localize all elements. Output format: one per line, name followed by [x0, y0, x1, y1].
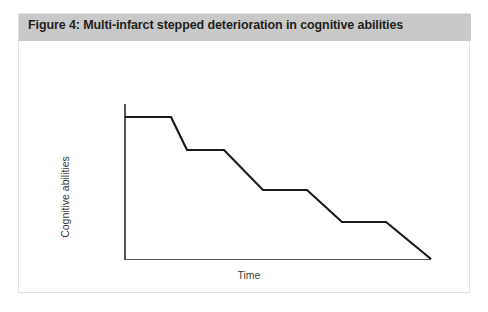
figure-title-bar: Figure 4: Multi-infarct stepped deterior… [19, 14, 471, 41]
figure-container: Figure 4: Multi-infarct stepped deterior… [18, 13, 470, 293]
chart-svg [19, 41, 471, 294]
figure-title: Figure 4: Multi-infarct stepped deterior… [28, 18, 403, 32]
chart-plot-area: Cognitive abilities Time [19, 41, 471, 294]
cognitive-decline-curve [125, 117, 431, 259]
y-axis-label: Cognitive abilities [59, 137, 71, 257]
x-axis-label: Time [219, 269, 279, 281]
